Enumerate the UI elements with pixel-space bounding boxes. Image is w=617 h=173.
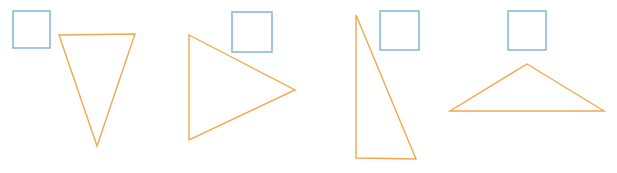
shapes-canvas (0, 0, 617, 173)
shape-canvas-svg (0, 0, 617, 173)
canvas-background (0, 0, 617, 173)
